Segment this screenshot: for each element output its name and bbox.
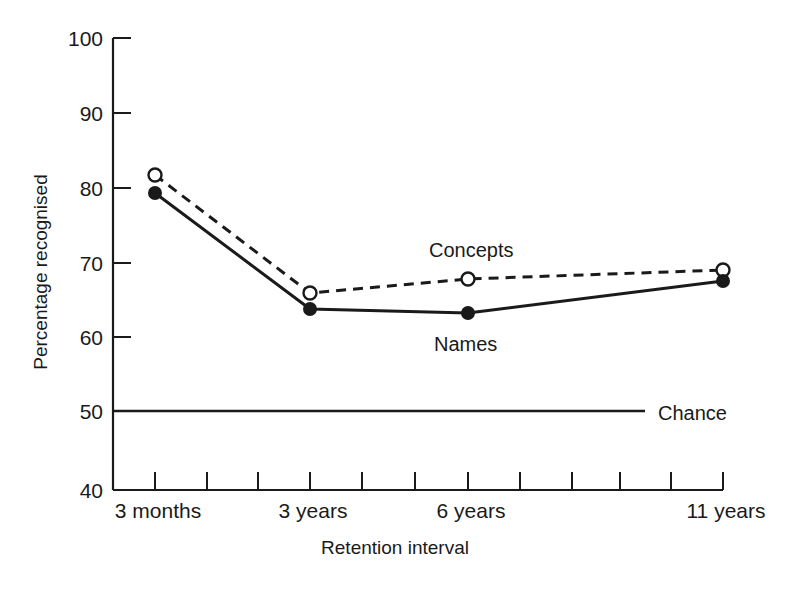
x-tick-marks (155, 472, 723, 490)
y-tick-label-80: 80 (80, 177, 103, 200)
series-names-point-0 (149, 187, 161, 199)
y-tick-label-50: 50 (80, 400, 103, 423)
y-tick-label-90: 90 (80, 102, 103, 125)
x-tick-labels: 3 months 3 years 6 years 11 years (115, 499, 766, 522)
series-concepts-point-2 (462, 273, 475, 286)
series-names-point-1 (304, 303, 316, 315)
y-tick-label-60: 60 (80, 326, 103, 349)
series-concepts: Concepts (149, 169, 730, 300)
y-tick-labels: 100 90 80 70 60 50 40 (68, 27, 103, 502)
y-tick-marks (113, 38, 131, 490)
series-concepts-line (155, 175, 723, 293)
x-tick-label-6-years: 6 years (437, 499, 506, 522)
y-tick-label-70: 70 (80, 252, 103, 275)
series-names: Names (149, 187, 729, 355)
x-tick-label-11-years: 11 years (687, 499, 766, 522)
y-tick-label-40: 40 (80, 479, 103, 502)
series-names-label: Names (434, 333, 497, 355)
y-axis-title: Percentage recognised (30, 174, 51, 369)
series-concepts-point-1 (304, 287, 317, 300)
x-tick-label-3-months: 3 months (115, 499, 201, 522)
series-concepts-point-0 (149, 169, 162, 182)
chance-reference-line-group: Chance (113, 402, 727, 424)
series-concepts-label: Concepts (429, 239, 514, 261)
x-tick-label-3-years: 3 years (279, 499, 348, 522)
series-names-point-2 (462, 307, 474, 319)
series-names-point-3 (717, 275, 729, 287)
chance-label: Chance (658, 402, 727, 424)
x-axis-title: Retention interval (321, 537, 469, 558)
chart-container: 100 90 80 70 60 50 40 3 months 3 yea (0, 0, 792, 589)
line-chart: 100 90 80 70 60 50 40 3 months 3 yea (0, 0, 792, 589)
y-tick-label-100: 100 (68, 27, 103, 50)
axis-group (113, 38, 723, 490)
